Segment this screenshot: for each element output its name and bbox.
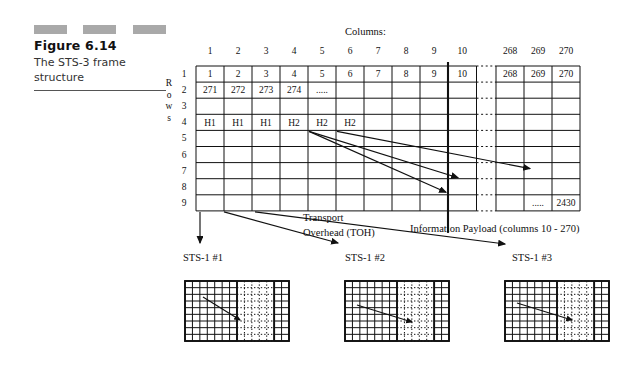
diagram-vector-layer (0, 0, 622, 374)
main-frame-grid (196, 62, 580, 233)
sts1-pointer-3 (255, 212, 505, 244)
sts1-subframe-3 (505, 281, 609, 341)
sts1-subframe-3-arrow (517, 303, 572, 320)
sts1-pointer-2 (224, 212, 338, 243)
payload-arrow-3 (309, 131, 446, 192)
diagram-arrows (200, 131, 530, 244)
sts1-subframe-2 (345, 281, 449, 341)
payload-arrow-2 (309, 131, 458, 177)
sts1-subframe-1-arrow (203, 297, 240, 320)
sts1-subframe-grids (185, 281, 609, 341)
figure-canvas: Figure 6.14 The STS-3 frame structure Co… (0, 0, 622, 374)
sts1-subframe-1 (185, 281, 289, 341)
